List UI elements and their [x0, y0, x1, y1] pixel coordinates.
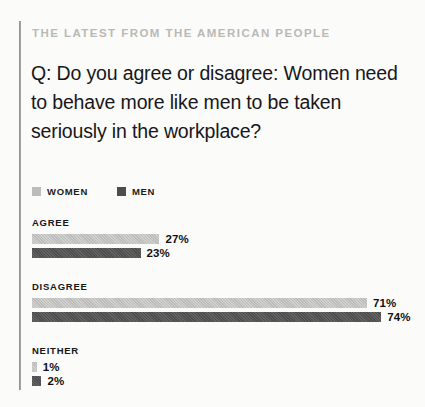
bar-row-women: 27%: [32, 233, 189, 245]
bar-group-label: DISAGREE: [32, 281, 411, 292]
bar-value-men: 2%: [47, 375, 64, 387]
bar-row-men: 2%: [32, 375, 79, 387]
legend-swatch-women-icon: [32, 187, 41, 196]
bar-group-label: NEITHER: [32, 345, 79, 356]
bar-row-men: 23%: [32, 247, 189, 259]
bar-row-men: 74%: [32, 311, 411, 323]
page-left-rule: [19, 21, 21, 390]
bar-row-women: 1%: [32, 361, 79, 373]
bar-value-women: 1%: [43, 361, 60, 373]
legend-label-women: WOMEN: [47, 186, 88, 197]
bar-men: [32, 376, 41, 386]
chart-legend: WOMEN MEN: [32, 186, 155, 197]
poll-card: THE LATEST FROM THE AMERICAN PEOPLE Q: D…: [0, 0, 425, 407]
legend-swatch-men-icon: [117, 187, 126, 196]
bar-group-agree: AGREE 27% 23%: [32, 217, 189, 261]
bar-value-men: 23%: [147, 247, 170, 259]
kicker-heading: THE LATEST FROM THE AMERICAN PEOPLE: [32, 27, 331, 39]
bar-value-men: 74%: [387, 311, 410, 323]
bar-women: [32, 298, 367, 308]
bar-women: [32, 362, 37, 372]
bar-women: [32, 234, 159, 244]
bar-value-women: 71%: [373, 297, 396, 309]
legend-item-men: MEN: [117, 186, 155, 197]
poll-question: Q: Do you agree or disagree: Women need …: [31, 59, 399, 146]
bar-group-neither: NEITHER 1% 2%: [32, 345, 79, 389]
bar-group-label: AGREE: [32, 217, 189, 228]
bar-row-women: 71%: [32, 297, 411, 309]
bar-value-women: 27%: [165, 233, 188, 245]
bar-group-disagree: DISAGREE 71% 74%: [32, 281, 411, 325]
legend-label-men: MEN: [132, 186, 155, 197]
bar-men: [32, 312, 381, 322]
legend-item-women: WOMEN: [32, 186, 88, 197]
bar-men: [32, 248, 141, 258]
